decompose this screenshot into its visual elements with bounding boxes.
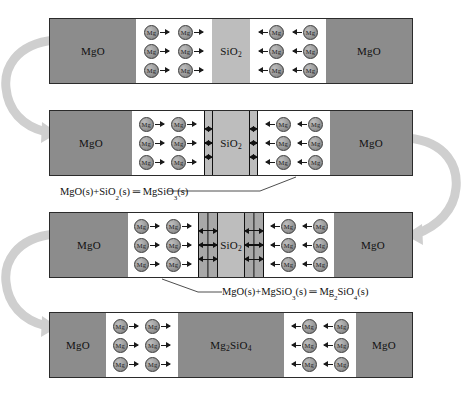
mg-ion-unit: Mg xyxy=(134,238,160,253)
mg-ion: Mg xyxy=(334,338,349,353)
stage-3-mg2sio4-growth: MgO Mg Mg Mg Mg Mg Mg SiO2 xyxy=(49,212,413,278)
mg-ion: Mg xyxy=(269,25,284,40)
layer-tick-group xyxy=(250,111,257,175)
mgo-block-right: MgO xyxy=(330,111,412,175)
diffusion-arrow-icon xyxy=(293,70,302,71)
mgo-label: MgO xyxy=(79,137,103,149)
mg-ion: Mg xyxy=(166,219,181,234)
diffusion-arrow-icon xyxy=(150,245,159,246)
diffusion-arrow-icon xyxy=(187,143,196,144)
diffusion-arrow-icon xyxy=(292,345,301,346)
mg-ion-unit: Mg xyxy=(292,44,318,59)
mg-ion: Mg xyxy=(276,117,291,132)
diffusion-arrow-icon xyxy=(155,162,164,163)
mg-ion-unit: Mg xyxy=(144,25,170,40)
diffusion-arrow-icon xyxy=(266,124,275,125)
mgo-label: MgO xyxy=(357,45,381,57)
mgo-label: MgO xyxy=(81,45,105,57)
mg-ion-unit: Mg xyxy=(166,257,192,272)
mgo-label: MgO xyxy=(77,239,101,251)
mg-ion: Mg xyxy=(308,136,323,151)
mgsio3-layer-right xyxy=(249,111,258,175)
mg-ion: Mg xyxy=(276,155,291,170)
diffusion-arrow-icon xyxy=(324,345,333,346)
mgo-block-left: MgO xyxy=(50,313,106,377)
diffusion-arrow-icon xyxy=(266,143,275,144)
diffusion-arrow-icon xyxy=(271,226,280,227)
mg-ion: Mg xyxy=(144,44,159,59)
ion-row: Mg Mg xyxy=(128,217,198,235)
diffusion-arrow-icon xyxy=(324,364,333,365)
mg-ion: Mg xyxy=(303,25,318,40)
layer-tick-group xyxy=(245,213,263,277)
mg-ion-unit: Mg xyxy=(297,117,323,132)
ion-grid-left: Mg Mg Mg Mg Mg Mg xyxy=(106,313,178,377)
mg-ion-unit: Mg xyxy=(292,25,318,40)
mg-ion: Mg xyxy=(313,238,328,253)
mg-ion: Mg xyxy=(178,25,193,40)
mg-ion-unit: Mg xyxy=(297,155,323,170)
layer-tick xyxy=(199,230,217,231)
diffusion-zone-left: Mg Mg Mg Mg Mg Mg xyxy=(132,111,204,175)
mg-ion: Mg xyxy=(302,357,317,372)
stage-2-mgsio3-nucleation: MgO Mg Mg Mg Mg Mg Mg SiO2 xyxy=(49,110,413,176)
diffusion-arrow-icon xyxy=(298,143,307,144)
mg-ion-unit: Mg xyxy=(258,44,284,59)
diffusion-arrow-icon xyxy=(303,226,312,227)
mg-ion-unit: Mg xyxy=(265,117,291,132)
mg-ion-unit: Mg xyxy=(270,219,296,234)
diffusion-arrow-icon xyxy=(161,326,170,327)
diffusion-arrow-icon xyxy=(187,162,196,163)
mg-ion: Mg xyxy=(139,136,154,151)
mg-ion: Mg xyxy=(113,338,128,353)
ion-row: Mg Mg xyxy=(250,42,326,60)
mg-ion: Mg xyxy=(302,338,317,353)
mg-ion-unit: Mg xyxy=(258,63,284,78)
mg-ion-unit: Mg xyxy=(139,136,165,151)
diffusion-zone-left: Mg Mg Mg Mg Mg Mg xyxy=(136,19,212,83)
mg-ion: Mg xyxy=(113,319,128,334)
mg-ion: Mg xyxy=(276,136,291,151)
mg-ion-unit: Mg xyxy=(139,117,165,132)
mg-ion: Mg xyxy=(139,117,154,132)
mg-ion: Mg xyxy=(134,257,149,272)
ion-row: Mg Mg xyxy=(250,23,326,41)
mg-ion-unit: Mg xyxy=(178,63,204,78)
diffusion-zone-left: Mg Mg Mg Mg Mg Mg xyxy=(106,313,178,377)
mgsio3-layer-left xyxy=(204,111,213,175)
mg-ion: Mg xyxy=(113,357,128,372)
layer-tick xyxy=(250,157,257,158)
layer-tick xyxy=(245,230,263,231)
mg-ion-unit: Mg xyxy=(171,136,197,151)
diffusion-arrow-icon xyxy=(160,32,169,33)
mg2sio4-block: Mg2SiO4 xyxy=(178,313,284,377)
ion-row: Mg Mg xyxy=(132,134,204,152)
diffusion-arrow-icon xyxy=(194,70,203,71)
layer-tick xyxy=(205,142,212,143)
mg-ion-unit: Mg xyxy=(292,63,318,78)
diffusion-arrow-icon xyxy=(303,245,312,246)
diffusion-arrow-icon xyxy=(160,70,169,71)
stage-1-initial-contact: MgO Mg Mg Mg Mg Mg Mg SiO2 Mg Mg xyxy=(49,18,413,84)
diffusion-arrow-icon xyxy=(266,162,275,163)
mg-ion: Mg xyxy=(166,257,181,272)
ion-row: Mg Mg xyxy=(284,336,356,354)
mg-ion-unit: Mg xyxy=(302,257,328,272)
sio2-block: SiO2 xyxy=(213,111,249,175)
mg-ion: Mg xyxy=(269,44,284,59)
mg-ion: Mg xyxy=(134,219,149,234)
mgo-label: MgO xyxy=(361,239,385,251)
stage-4-forsterite-complete: MgO Mg Mg Mg Mg Mg Mg Mg2SiO4 Mg Mg xyxy=(49,312,413,378)
diffusion-arrow-icon xyxy=(182,226,191,227)
mg-ion-unit: Mg xyxy=(270,257,296,272)
diffusion-zone-right: Mg Mg Mg Mg Mg Mg xyxy=(284,313,356,377)
mgo-block-right: MgO xyxy=(326,19,412,83)
diffusion-arrow-icon xyxy=(324,326,333,327)
mg-ion: Mg xyxy=(145,319,160,334)
mg-ion-unit: Mg xyxy=(171,155,197,170)
mg-ion-unit: Mg xyxy=(323,338,349,353)
ion-row: Mg Mg xyxy=(128,255,198,273)
mg-ion-unit: Mg xyxy=(323,357,349,372)
diffusion-zone-right: Mg Mg Mg Mg Mg Mg xyxy=(264,213,334,277)
diffusion-arrow-icon xyxy=(150,226,159,227)
